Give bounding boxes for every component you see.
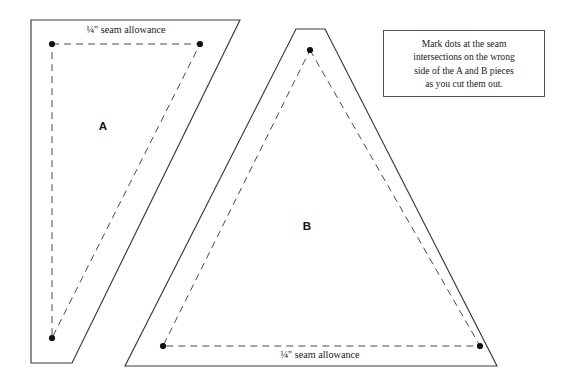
instruction-note-text: Mark dots at the seam intersections on t…: [407, 37, 521, 90]
piece-b-seam-dot-apex: [307, 47, 313, 53]
instruction-note-box: Mark dots at the seam intersections on t…: [383, 30, 545, 97]
diagram-canvas: A ¼" seam allowance B ¼" seam allowance …: [0, 0, 573, 390]
piece-a-seam-dot-bottom-left: [49, 335, 55, 341]
note-line-2: intersections on the wrong: [413, 50, 515, 63]
note-line-1: Mark dots at the seam: [413, 37, 515, 50]
piece-b-seam-allowance-label: ¼" seam allowance: [280, 349, 360, 360]
piece-b-seam-dot-bottom-right: [477, 343, 483, 349]
note-line-3: side of the A and B pieces: [413, 64, 515, 77]
piece-a-seam-dot-top-left: [49, 41, 55, 47]
note-line-4: as you cut them out.: [413, 77, 515, 90]
piece-b-label: B: [303, 220, 311, 232]
piece-a-label: A: [99, 120, 107, 132]
piece-b-seam-dot-bottom-left: [160, 343, 166, 349]
piece-a-seam-allowance-label: ¼" seam allowance: [86, 24, 166, 35]
piece-a-seam-dot-top-right: [197, 41, 203, 47]
